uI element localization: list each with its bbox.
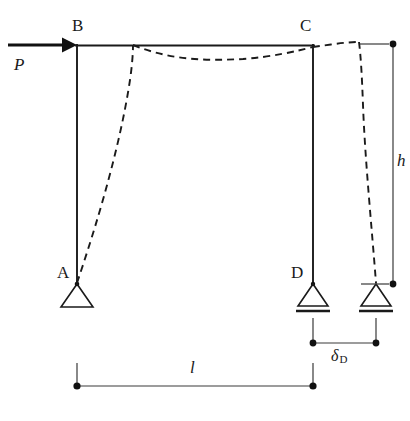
load-arrow-P <box>8 38 77 53</box>
frame-diagram: B C A D P h l δD <box>0 0 410 421</box>
deflected-column-CD <box>359 42 376 283</box>
dimension-delta-D <box>310 318 380 346</box>
dimension-delta-dot-left <box>310 340 317 347</box>
support-A <box>61 284 93 307</box>
dimension-h-dot-top <box>390 41 397 48</box>
dimension-label-delta-D: δD <box>331 348 346 364</box>
support-D-displaced <box>359 284 393 311</box>
support-triangle-D-icon <box>298 284 328 306</box>
node-label-B: B <box>72 17 83 34</box>
dimension-l <box>73 363 316 390</box>
deflected-beam-BC <box>133 45 313 60</box>
support-triangle-D-displaced-icon <box>361 284 391 306</box>
load-label-P: P <box>14 56 24 73</box>
node-label-A: A <box>57 264 69 281</box>
load-arrow-head-icon <box>62 38 77 53</box>
node-label-D: D <box>291 264 303 281</box>
dimension-delta-dot-right <box>373 340 380 347</box>
dimension-label-l: l <box>190 359 195 376</box>
diagram-canvas <box>0 0 410 421</box>
delta-glyph: δ <box>331 347 338 364</box>
node-label-C: C <box>300 17 311 34</box>
deflected-shape <box>77 42 376 283</box>
deflected-beam-overhang <box>313 42 359 47</box>
delta-subscript: D <box>339 353 347 365</box>
deflected-column-AB <box>77 45 133 283</box>
dimension-h-dot-bottom <box>390 281 397 288</box>
support-D <box>296 284 330 311</box>
dimension-l-dot-right <box>309 382 316 389</box>
support-triangle-A-icon <box>61 284 93 307</box>
dimension-l-dot-left <box>73 382 80 389</box>
dimension-label-h: h <box>397 152 406 169</box>
